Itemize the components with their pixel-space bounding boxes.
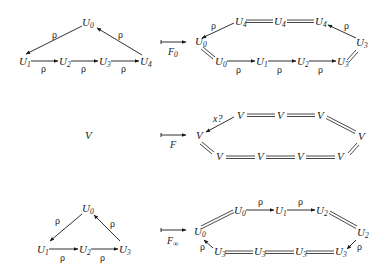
node-U2: U2 <box>79 243 91 257</box>
node-V: V <box>297 150 305 162</box>
node-U4: U4 <box>315 15 327 29</box>
node-U0: U0 <box>82 16 94 30</box>
node-U0: U0 <box>234 204 246 218</box>
label-rho: ρ <box>41 63 46 74</box>
row2-target-diagram: V V V V V V V V V x? <box>196 109 366 162</box>
label-rho: ρ <box>200 241 205 252</box>
node-V: V <box>257 150 265 162</box>
label-x-question: x? <box>212 113 222 124</box>
arrow-rho <box>204 240 213 248</box>
row3-source-diagram: U0 U1 U2 U3 ρ ρ ρ ρ <box>37 202 131 263</box>
label-rho: ρ <box>357 241 362 252</box>
label-rho: ρ <box>258 196 263 207</box>
label-rho: ρ <box>81 63 86 74</box>
node-U1: U1 <box>256 55 268 69</box>
node-V: V <box>277 109 285 121</box>
label-rho: ρ <box>236 64 241 75</box>
node-V: V <box>196 129 204 141</box>
arrow-rho <box>202 23 234 38</box>
node-V: V <box>237 109 245 121</box>
functor-label-Finf: F∞ <box>166 235 179 248</box>
node-U3: U3 <box>335 245 347 259</box>
label-rho: ρ <box>121 63 126 74</box>
functor-label-F0: F0 <box>167 46 178 59</box>
functor-diagram: U0 U1 U2 U3 U4 ρ ρ ρ ρ ρ F0 U4 U4 U4 U0 … <box>0 0 384 276</box>
label-rho: ρ <box>344 20 349 31</box>
node-U0: U0 <box>195 35 207 49</box>
node-U4: U4 <box>274 15 286 29</box>
node-U0: U0 <box>82 202 94 216</box>
functor-Finf-mapsto: F∞ <box>161 228 186 248</box>
node-V: V <box>216 150 224 162</box>
node-U2: U2 <box>297 55 309 69</box>
node-U3: U3 <box>254 245 266 259</box>
row3-target-diagram: U0 U1 U2 U0 U2 U3 U3 U3 U3 ρ ρ ρ ρ <box>194 196 369 259</box>
node-U3: U3 <box>295 245 307 259</box>
node-V: V <box>85 129 93 141</box>
label-rho: ρ <box>298 196 303 207</box>
arrow-rho <box>328 25 356 38</box>
label-rho: ρ <box>52 29 57 40</box>
row1-source-diagram: U0 U1 U2 U3 U4 ρ ρ ρ ρ ρ <box>19 16 152 74</box>
label-rho: ρ <box>277 64 282 75</box>
node-U3: U3 <box>337 55 349 69</box>
node-V: V <box>317 109 325 121</box>
node-V: V <box>358 130 366 142</box>
functor-F0-mapsto: F0 <box>161 40 186 59</box>
node-U1: U1 <box>275 204 287 218</box>
functor-F-mapsto: F <box>161 133 186 150</box>
row1-target-diagram: U4 U4 U4 U0 U3 U0 U1 U2 U3 ρ ρ ρ ρ ρ <box>195 15 368 75</box>
node-U3: U3 <box>99 55 111 69</box>
label-rho: ρ <box>100 252 105 263</box>
node-U2: U2 <box>357 226 369 240</box>
label-rho: ρ <box>211 20 216 31</box>
node-U3: U3 <box>356 36 368 50</box>
node-U3: U3 <box>119 243 131 257</box>
node-U3: U3 <box>214 245 226 259</box>
node-U4: U4 <box>140 55 152 69</box>
label-rho: ρ <box>55 215 60 226</box>
node-U2: U2 <box>59 55 71 69</box>
node-U1: U1 <box>19 55 31 69</box>
label-rho: ρ <box>60 252 65 263</box>
arrow-rho <box>347 240 356 249</box>
node-U4: U4 <box>235 15 247 29</box>
node-U1: U1 <box>37 243 49 257</box>
label-rho: ρ <box>318 64 323 75</box>
arrow-U3-U0 <box>94 215 120 241</box>
node-U2: U2 <box>316 204 328 218</box>
label-rho: ρ <box>110 218 115 229</box>
label-rho: ρ <box>118 29 123 40</box>
node-V: V <box>337 150 345 162</box>
node-U0: U0 <box>215 55 227 69</box>
functor-label-F: F <box>169 139 177 150</box>
